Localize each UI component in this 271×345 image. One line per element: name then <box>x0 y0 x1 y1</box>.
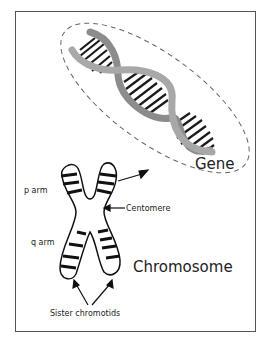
gene-arrow <box>118 174 142 181</box>
label-chromosome: Chromosome <box>133 258 233 276</box>
label-centromere: Centomere <box>126 204 170 213</box>
chromosome-outline <box>60 163 120 279</box>
chromosome <box>60 163 120 279</box>
gene-arrowhead <box>139 170 148 178</box>
label-gene: Gene <box>195 155 235 173</box>
label-q-arm: q arm <box>31 238 54 247</box>
dna-strands <box>72 32 212 152</box>
sister-arrow-right <box>92 284 110 305</box>
label-p-arm: p arm <box>24 186 47 195</box>
sister-arrow-left <box>76 284 88 305</box>
dna-base-pairs <box>80 38 214 154</box>
dna-strand-a <box>90 32 210 151</box>
label-sister-chromatids: Sister chromotids <box>50 309 120 318</box>
